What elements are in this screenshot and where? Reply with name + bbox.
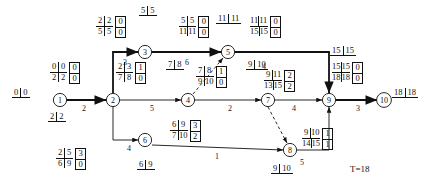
matrix-act-2-3-total-float: 0 [116, 17, 125, 27]
matrix-act-2-4-late-finish: 8 [125, 73, 133, 83]
matrix-act-1-2-early-finish: 0 [59, 62, 67, 72]
matrix-act-9-10-early-start: 15 [332, 62, 341, 72]
total-duration-label: T=18 [350, 164, 370, 174]
pair-node-10-early: 18 [392, 88, 405, 97]
pair-underline [392, 97, 418, 98]
edge-4-7-duration: 2 [228, 104, 232, 113]
node-1[interactable]: 1 [53, 93, 66, 106]
dummy-edge-7-8 [268, 107, 287, 143]
matrix-act-1-2-early-start: 0 [50, 62, 58, 72]
pair-node-7-early: 9 [246, 60, 254, 69]
matrix-act-5-7: 1111151500 [250, 16, 281, 38]
pair-node-8: 910 [271, 164, 293, 174]
svg-text:10: 10 [380, 96, 388, 105]
node-4[interactable]: 4 [181, 93, 194, 106]
matrix-act-3-5-early-start: 5 [179, 16, 187, 26]
matrix-act-2-6: 256930 [56, 148, 86, 170]
matrix-act-9-10-late-finish: 18 [342, 73, 351, 83]
matrix-act-7-9-early-finish: 11 [273, 70, 281, 80]
matrix-act-9-10-late-start: 18 [332, 73, 341, 83]
svg-text:2: 2 [111, 96, 115, 105]
matrix-act-2-3-free-float: 0 [116, 28, 125, 38]
matrix-act-2-4-late-start: 7 [116, 73, 124, 83]
matrix-act-2-6-early-start: 2 [56, 148, 64, 158]
matrix-act-4-7-free-float: 0 [217, 78, 226, 88]
node-6[interactable]: 6 [138, 133, 151, 146]
pair-underline [48, 121, 66, 122]
matrix-act-5-7-early-finish: 11 [259, 16, 267, 26]
matrix-act-9-10-free-float: 0 [353, 74, 362, 84]
svg-text:6: 6 [143, 136, 147, 145]
node-8[interactable]: 8 [283, 143, 296, 156]
pair-node-6: 69 [137, 160, 155, 170]
matrix-act-2-6-float-box: 30 [75, 148, 86, 170]
matrix-act-8-9: 910141511 [302, 128, 333, 150]
matrix-act-8-9-late-start: 14 [302, 139, 311, 149]
matrix-act-8-9-total-float: 1 [323, 129, 332, 139]
edge-2-6 [113, 107, 138, 140]
pair-node-8-early: 9 [271, 164, 279, 173]
matrix-act-1-2-late-finish: 2 [59, 73, 67, 83]
matrix-act-4-7-late-finish: 10 [205, 77, 214, 87]
svg-text:7: 7 [266, 96, 270, 105]
edge-8-9-duration: 5 [300, 158, 304, 167]
pair-node-4-early: 7 [166, 60, 174, 69]
edge-7-9-duration: 4 [292, 104, 296, 113]
pair-node-10: 1818 [392, 88, 418, 98]
pair-underline [216, 23, 241, 24]
edge-6-8-duration: 1 [215, 152, 219, 161]
svg-text:1: 1 [58, 96, 62, 105]
pair-underline [137, 169, 155, 170]
pair-node-6-late: 9 [146, 160, 154, 169]
matrix-act-2-6-late-start: 6 [56, 159, 64, 169]
matrix-act-2-4-float-box: 10 [135, 62, 146, 84]
matrix-act-6-8-float-box: 32 [190, 120, 201, 142]
pair-node-5-late: 11 [229, 14, 241, 23]
matrix-act-7-9-float-box: 22 [284, 70, 295, 92]
pair-node-4-late: 8 [175, 60, 183, 69]
edge-6-8 [152, 145, 283, 150]
pair-underline [139, 15, 157, 16]
node-9[interactable]: 9 [322, 93, 335, 106]
node-5[interactable]: 5 [221, 45, 234, 58]
matrix-act-9-10-total-float: 0 [353, 63, 362, 73]
matrix-act-2-3-late-start: 5 [96, 27, 104, 37]
matrix-act-4-7-late-start: 9 [196, 77, 204, 87]
matrix-act-6-8-late-finish: 10 [179, 131, 188, 141]
node-7[interactable]: 7 [261, 93, 274, 106]
edge-3-5-duration: 6 [185, 58, 189, 67]
matrix-act-7-9-early-start: 9 [264, 70, 272, 80]
node-2[interactable]: 2 [106, 93, 119, 106]
matrix-act-2-4-total-float: 1 [136, 63, 145, 73]
svg-text:4: 4 [186, 96, 190, 105]
matrix-act-6-8-early-finish: 9 [179, 120, 187, 130]
matrix-act-1-2-late-start: 2 [50, 73, 58, 83]
node-10[interactable]: 10 [377, 93, 392, 108]
matrix-act-4-7-total-float: 1 [217, 67, 226, 77]
edge-1-2-duration: 2 [82, 104, 86, 113]
matrix-act-3-5-float-box: 00 [198, 16, 209, 38]
svg-text:8: 8 [288, 146, 292, 155]
matrix-act-3-5-total-float: 0 [199, 17, 208, 27]
matrix-act-9-10-early-finish: 15 [342, 62, 351, 72]
pair-node-1: 00 [12, 88, 30, 98]
pair-node-5-early: 11 [216, 14, 228, 23]
pair-node-1-early: 0 [12, 88, 20, 97]
matrix-act-2-3-float-box: 00 [115, 16, 126, 38]
pair-node-2: 22 [48, 112, 66, 122]
matrix-act-2-4-free-float: 0 [136, 74, 145, 84]
matrix-act-1-2-free-float: 0 [70, 74, 79, 84]
svg-text:3: 3 [143, 48, 147, 57]
matrix-act-1-2: 002200 [50, 62, 80, 84]
svg-text:5: 5 [226, 48, 230, 57]
pair-node-3-late: 5 [148, 6, 156, 15]
matrix-act-5-7-float-box: 00 [270, 16, 281, 38]
matrix-act-1-2-total-float: 0 [70, 63, 79, 73]
node-3[interactable]: 3 [138, 45, 151, 58]
matrix-act-2-4-early-start: 2 [116, 62, 124, 72]
matrix-act-2-6-late-finish: 9 [65, 159, 73, 169]
network-diagram-canvas: 1 2 3 4 5 6 7 8 9 10 23652443415 0022557… [0, 0, 424, 183]
pair-node-9: 1515 [330, 46, 356, 56]
pair-node-9-late: 15 [344, 46, 357, 55]
matrix-act-9-10: 1515181800 [332, 62, 363, 84]
